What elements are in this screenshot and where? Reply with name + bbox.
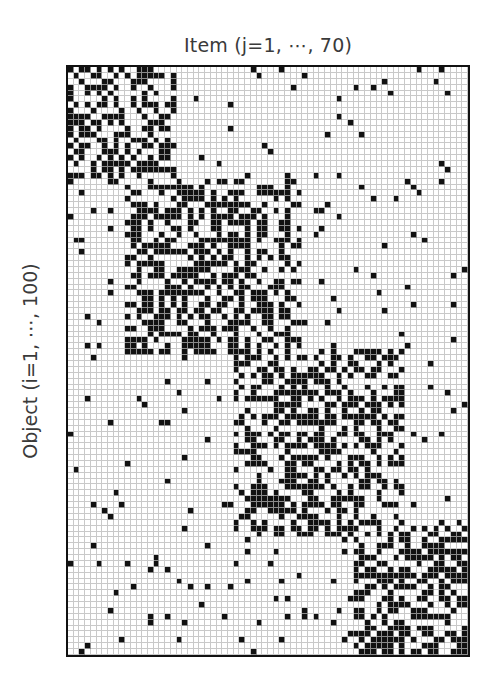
matrix-cell (462, 649, 468, 655)
x-axis-title: Item (j=1, ⋯, 70) (66, 34, 470, 56)
binary-matrix (66, 65, 470, 657)
y-axis-title: Object (i=1, ⋯, 100) (19, 263, 41, 458)
